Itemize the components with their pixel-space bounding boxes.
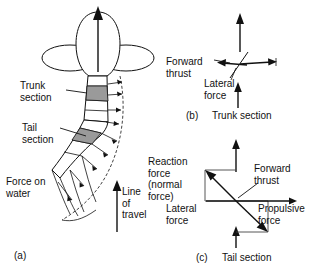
label-c-reaction-force: Reaction force (normal force) <box>148 156 187 202</box>
panel-c-travel-arrow-bottom <box>232 226 240 248</box>
label-c-propulsive-force: Propulsive force <box>258 203 305 226</box>
caption-panel-c-index: (c) <box>196 252 208 264</box>
figure-root: Trunk section Tail section Force on wate… <box>0 0 326 277</box>
panel-c-reaction-force-vector <box>205 170 236 201</box>
panel-c-graphic <box>0 0 326 277</box>
caption-panel-c-text: Tail section <box>222 252 271 264</box>
panel-c-travel-arrow-top <box>232 139 240 172</box>
label-c-lateral-force: Lateral force <box>166 203 197 226</box>
label-c-forward-thrust: Forward thrust <box>254 163 291 186</box>
